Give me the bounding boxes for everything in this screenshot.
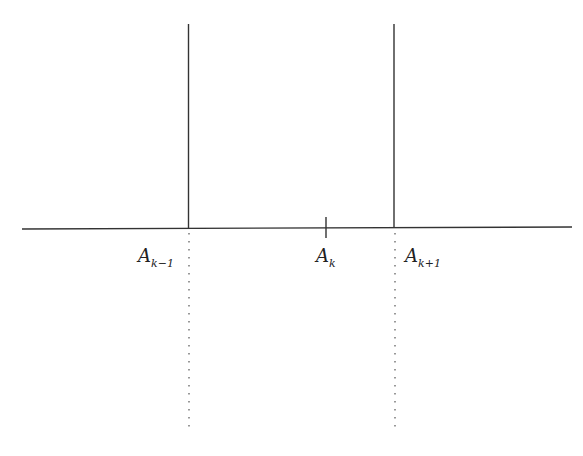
diagram-canvas: Ak−1 Ak Ak+1 [0,0,583,456]
diagram-svg: Ak−1 Ak Ak+1 [0,0,583,456]
label-a-k-plus-1: Ak+1 [403,245,441,270]
label-a-k: Ak [314,245,336,270]
horizontal-axis [22,227,572,229]
label-a-k-minus-1: Ak−1 [136,245,174,270]
